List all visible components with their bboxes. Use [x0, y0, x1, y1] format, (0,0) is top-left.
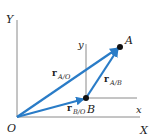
vector-symbol: r	[104, 74, 109, 84]
fixed-y-label: Y	[6, 13, 15, 26]
label-r-A-B: r A/B	[104, 74, 122, 87]
fixed-x-label: X	[139, 124, 149, 137]
vector-subscript: A/O	[57, 73, 71, 81]
vector-r-A-B	[86, 49, 118, 98]
label-r-A-O: r A/O	[52, 68, 71, 81]
point-B	[83, 95, 89, 101]
label-r-B-O: r B/O	[67, 103, 86, 116]
point-A	[117, 44, 123, 50]
vector-symbol: r	[67, 103, 72, 113]
point-B-label: B	[86, 103, 95, 116]
point-A-label: A	[124, 34, 133, 47]
fixed-axes	[17, 20, 140, 117]
vector-subscript: B/O	[72, 108, 86, 116]
vector-symbol: r	[52, 68, 57, 78]
translating-x-label: x	[136, 104, 142, 115]
translating-y-label: y	[77, 39, 84, 50]
origin-label: O	[7, 122, 16, 135]
vector-subscript: A/B	[109, 79, 122, 87]
relative-position-diagram: Y X O y x A B r A/O r B/O r A/B	[0, 0, 154, 137]
